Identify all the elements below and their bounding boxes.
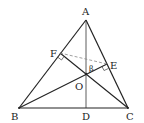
geometry-diagram: A B C D E F O β	[0, 0, 144, 123]
label-beta: β	[89, 64, 94, 73]
label-o: O	[75, 81, 83, 92]
label-d: D	[82, 111, 90, 122]
label-c: C	[126, 111, 134, 122]
point-o	[85, 73, 87, 75]
altitude-be	[19, 64, 107, 108]
label-b: B	[11, 111, 18, 122]
altitude-cf	[60, 53, 128, 108]
label-f: F	[50, 48, 57, 59]
right-angle-mark-e	[102, 67, 109, 71]
label-a: A	[81, 6, 90, 17]
point-b	[18, 107, 20, 109]
label-e: E	[110, 60, 117, 71]
point-c	[127, 107, 129, 109]
side-ab	[19, 20, 86, 108]
